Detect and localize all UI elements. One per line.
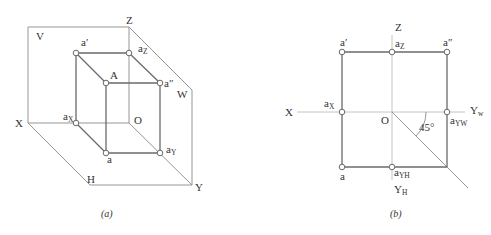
label-a: a: [340, 170, 345, 182]
label-h-plane: H: [87, 173, 95, 185]
point-a-prime: [339, 49, 345, 55]
point-ay: [157, 150, 163, 156]
point-a-double-prime: [157, 80, 163, 86]
label-a-double-prime: a″: [164, 77, 173, 89]
projection-lines: [342, 52, 447, 167]
label-ay: aY: [166, 143, 177, 157]
label-angle: 45°: [419, 121, 434, 133]
point-ax: [73, 120, 79, 126]
label-z-axis: Z: [126, 14, 133, 26]
figure-b-orthographic: Z X O Yw YH a′ a″ a aZ aX aYW aYH 45° (b…: [285, 21, 484, 220]
label-yh-axis: YH: [394, 183, 408, 197]
projection-diagram: V H W X Z Y O a′ A a″ a aX aZ aY (a): [0, 0, 491, 235]
figure-a-isometric: V H W X Z Y O a′ A a″ a aX aZ aY (a): [15, 14, 203, 220]
label-y-axis: Y: [195, 181, 203, 193]
point-ax: [339, 109, 345, 115]
label-a-prime: a′: [340, 36, 347, 48]
label-az: aZ: [395, 37, 405, 51]
caption-a: (a): [101, 208, 113, 220]
label-A: A: [110, 69, 118, 81]
point-az: [389, 49, 395, 55]
projection-box: [76, 53, 160, 153]
point-A: [103, 80, 109, 86]
point-a-prime: [73, 50, 79, 56]
label-ax: aX: [324, 97, 335, 111]
label-yw-axis: Yw: [470, 104, 484, 118]
label-x-axis: X: [15, 117, 23, 129]
label-a-prime: a′: [81, 36, 88, 48]
label-ayh: aYH: [394, 166, 410, 180]
caption-b: (b): [390, 208, 402, 220]
point-a: [339, 164, 345, 170]
point-az: [126, 50, 132, 56]
label-z-axis: Z: [395, 21, 402, 33]
label-ayw: aYW: [450, 114, 468, 128]
label-a-double-prime: a″: [443, 36, 452, 48]
label-ax: aX: [63, 110, 74, 124]
label-origin: O: [381, 114, 389, 126]
label-x-axis: X: [285, 106, 293, 118]
point-a-double-prime: [444, 49, 450, 55]
label-origin: O: [134, 114, 142, 126]
label-v-plane: V: [36, 30, 44, 42]
label-a: a: [107, 153, 112, 165]
point-ayw: [444, 109, 450, 115]
label-w-plane: W: [177, 88, 188, 100]
